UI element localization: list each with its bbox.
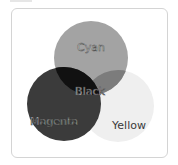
venn-diagram: Cyan Black Magenta Yellow (0, 0, 178, 165)
magenta-label: Magenta (30, 115, 78, 128)
cyan-label: Cyan (77, 41, 105, 54)
yellow-label: Yellow (111, 119, 146, 132)
black-label: Black (75, 85, 105, 98)
